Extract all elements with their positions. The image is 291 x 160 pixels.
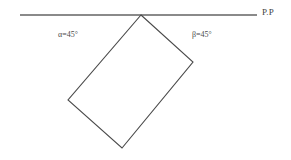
rotated-rectangle (68, 15, 193, 148)
angle-beta-label: β=45° (192, 31, 212, 39)
diagram-svg (0, 0, 291, 160)
picture-plane-label: P.P (262, 8, 274, 17)
geometry-diagram-canvas: P.P α=45° β=45° (0, 0, 291, 160)
angle-alpha-label: α=45° (58, 31, 78, 39)
